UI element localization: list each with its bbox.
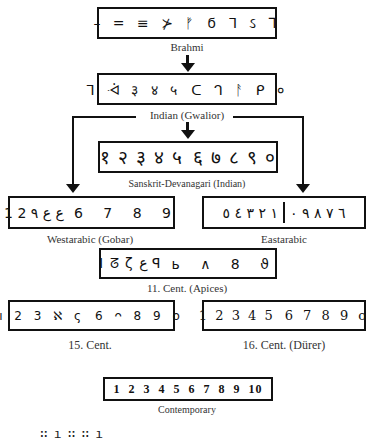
cent15-numerals-box: ı 2 3 ℵ ς 6 ᴖ 8 9 o bbox=[8, 300, 175, 331]
cent16-numerals-1-5: 1 2 3 4 5 bbox=[199, 308, 275, 323]
branch-line-left-vertical bbox=[72, 116, 74, 184]
arrow-down-icon bbox=[296, 184, 310, 193]
apices-numerals-box: I ᘔ ζ ع ꟼ ь ∧ 8 ϑ bbox=[99, 248, 277, 279]
indian-numerals-6-0: ᑕ ᒉ ᚨ ᑭ ० bbox=[191, 80, 288, 99]
contemporary-numerals-box: 1 2 3 4 5 6 7 8 9 10 bbox=[103, 377, 273, 401]
brahmi-numerals-box: – = ≡ ⊁ ᚠ ϭ ᒣ ઽ ⅂ bbox=[97, 7, 277, 39]
westarabic-label: Westarabic (Gobar) bbox=[47, 233, 133, 245]
westarabic-numerals-box: 1 2 ع ع ٩ 6 7 8 9 bbox=[8, 196, 175, 229]
cent16-durer-label: 16. Cent. (Dürer) bbox=[243, 338, 326, 353]
eastarabic-numerals-6-0: ٦ ٧ ٨ ٩ ٠ bbox=[290, 205, 345, 221]
devanagari-numerals-1-5: १ २ ३ ४ ५ bbox=[100, 144, 183, 170]
brahmi-numerals-6-9: ϭ ᒣ ઽ ⅂ bbox=[207, 15, 280, 32]
cent15-numerals-6-0: 6 ᴖ 8 9 o bbox=[95, 309, 184, 323]
apices-numerals-6-9: ь ∧ 8 ϑ bbox=[171, 256, 276, 272]
cent15-label: 15. Cent. bbox=[68, 338, 112, 353]
eastarabic-numerals-box: ١ ٢ ٣ ٤ ٥ ٦ ٧ ٨ ٩ ٠ bbox=[202, 196, 366, 229]
eastarabic-label: Eastarabic bbox=[261, 233, 307, 245]
westarabic-numerals-6-9: 6 7 8 9 bbox=[74, 205, 179, 221]
westarabic-numerals-1-5: 1 2 ع ع ٩ bbox=[4, 205, 64, 221]
indian-gwalior-numerals-box: ᒣ ᢳ ३ ४ ५ ᑕ ᒉ ᚨ ᑭ ० bbox=[97, 73, 277, 105]
brahmi-numerals-1-5: – = ≡ ⊁ ᚠ bbox=[93, 15, 197, 31]
indian-numerals-1-5: ᒣ ᢳ ३ ४ ५ bbox=[86, 80, 181, 99]
branch-line-left bbox=[72, 116, 136, 118]
eastarabic-numerals-1-5: ١ ٢ ٣ ٤ ٥ bbox=[223, 205, 278, 221]
brahmi-label: Brahmi bbox=[171, 41, 204, 53]
contemporary-label: Contemporary bbox=[158, 404, 216, 415]
arrow-down-icon bbox=[66, 184, 80, 193]
sanskrit-devanagari-numerals-box: १ २ ३ ४ ५ ६ ७ ८ ९ ० bbox=[98, 141, 278, 173]
arrow-down-icon bbox=[181, 63, 195, 72]
branch-line-right bbox=[233, 116, 304, 118]
sanskrit-devanagari-label: Sanskrit-Devanagari (Indian) bbox=[129, 178, 246, 189]
devanagari-numerals-6-0: ६ ७ ८ ९ ० bbox=[193, 144, 276, 170]
contemporary-numerals: 1 2 3 4 5 6 7 8 9 10 bbox=[114, 382, 263, 397]
cent15-numerals-1-5: ı 2 3 ℵ ς bbox=[0, 309, 85, 323]
cent16-durer-numerals-box: 1 2 3 4 5 6 7 8 9 o bbox=[202, 300, 366, 331]
apices-label: 11. Cent. (Apices) bbox=[147, 282, 227, 294]
cropped-glyph-fragment: ∷ı∷∷ı bbox=[40, 426, 109, 441]
divider bbox=[283, 202, 285, 223]
cent16-numerals-6-0: 6 7 8 9 o bbox=[285, 308, 369, 323]
branch-line-right-vertical bbox=[302, 116, 304, 184]
indian-gwalior-label: Indian (Gwalior) bbox=[150, 109, 224, 121]
arrow-down-icon bbox=[181, 130, 195, 139]
apices-numerals-1-5: I ᘔ ζ ع ꟼ bbox=[99, 255, 161, 272]
